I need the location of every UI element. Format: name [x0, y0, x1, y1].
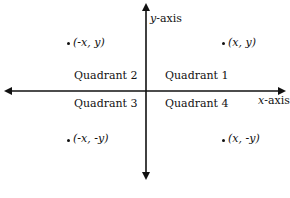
- quadrant-1-label: Quadrant 1: [165, 70, 229, 82]
- quadrant-2-point-label: (-x, y): [73, 37, 105, 49]
- quadrant-2-point-dot: [67, 42, 70, 45]
- y-axis-label: y-axis: [150, 13, 182, 25]
- quadrant-3-label: Quadrant 3: [74, 98, 138, 110]
- quadrant-3-point-dot: [67, 139, 70, 142]
- quadrant-4-label: Quadrant 4: [165, 98, 229, 110]
- quadrant-3-point-label: (-x, -y): [73, 133, 108, 145]
- coordinate-plane-diagram: y-axis x-axis Quadrant 1 (x, y) Quadrant…: [0, 0, 290, 198]
- axes-graphic: [0, 0, 290, 198]
- x-axis-label: x-axis: [258, 95, 290, 107]
- quadrant-4-point-dot: [222, 139, 225, 142]
- quadrant-1-point-label: (x, y): [228, 37, 256, 49]
- quadrant-1-point-dot: [222, 42, 225, 45]
- quadrant-4-point-label: (x, -y): [228, 133, 260, 145]
- quadrant-2-label: Quadrant 2: [74, 70, 138, 82]
